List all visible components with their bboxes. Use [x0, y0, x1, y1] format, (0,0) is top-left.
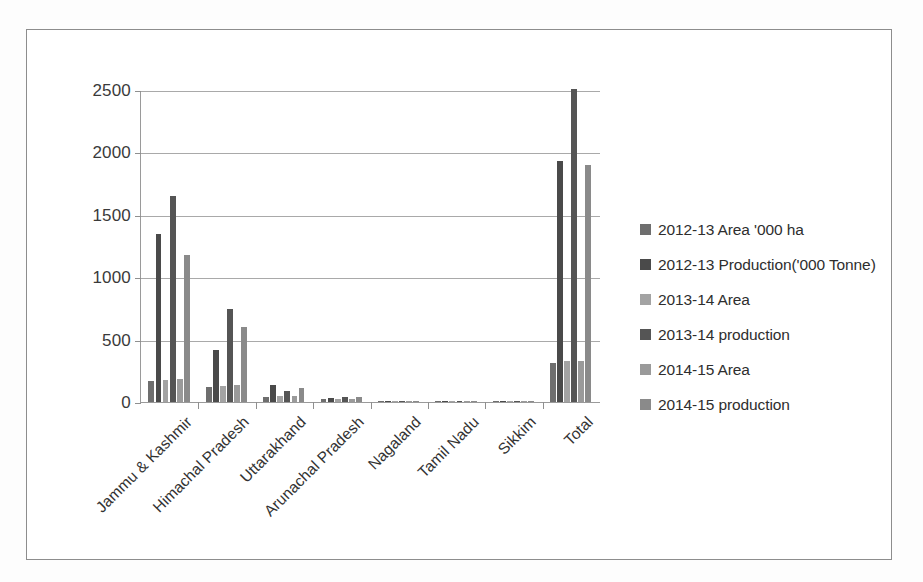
bar-group	[206, 91, 248, 402]
bar[interactable]	[464, 401, 470, 402]
bar-group	[435, 91, 477, 402]
bar[interactable]	[392, 401, 398, 402]
bar[interactable]	[234, 385, 240, 402]
bar[interactable]	[564, 361, 570, 402]
y-axis-tick-label: 2000	[92, 143, 131, 163]
bar[interactable]	[292, 396, 298, 402]
plot-area: 05001000150020002500	[140, 91, 600, 403]
bar[interactable]	[148, 381, 154, 402]
bar[interactable]	[342, 397, 348, 402]
bar[interactable]	[263, 397, 269, 402]
bar[interactable]	[206, 387, 212, 402]
bar[interactable]	[177, 379, 183, 402]
legend-swatch-icon	[640, 259, 651, 270]
legend-item-label: 2014-15 production	[658, 396, 790, 414]
bar[interactable]	[578, 361, 584, 402]
figure-border: 05001000150020002500 Jammu & KashmirHima…	[26, 29, 892, 560]
bar[interactable]	[328, 398, 334, 402]
bar[interactable]	[349, 399, 355, 402]
legend-item[interactable]: 2013-14 Area	[640, 282, 915, 317]
bar[interactable]	[277, 396, 283, 402]
x-axis-tick	[371, 402, 372, 409]
bar[interactable]	[335, 399, 341, 402]
bar[interactable]	[241, 327, 247, 402]
legend-item[interactable]: 2012-13 Production('000 Tonne)	[640, 247, 915, 282]
bar[interactable]	[521, 401, 527, 402]
legend-item[interactable]: 2014-15 Area	[640, 352, 915, 387]
bar[interactable]	[270, 385, 276, 402]
y-axis-tick	[135, 216, 141, 217]
x-axis-tick	[313, 402, 314, 409]
y-axis-tick	[135, 278, 141, 279]
legend-item-label: 2014-15 Area	[658, 361, 750, 379]
y-axis-tick	[135, 153, 141, 154]
chart-screenshot: 05001000150020002500 Jammu & KashmirHima…	[0, 0, 923, 582]
chart-legend: 2012-13 Area '000 ha2012-13 Production('…	[640, 212, 915, 422]
x-axis-tick	[543, 402, 544, 409]
bar[interactable]	[528, 401, 534, 402]
legend-item-label: 2013-14 Area	[658, 291, 750, 309]
bar[interactable]	[299, 388, 305, 402]
legend-item[interactable]: 2014-15 production	[640, 387, 915, 422]
legend-swatch-icon	[640, 329, 651, 340]
bar[interactable]	[406, 401, 412, 402]
x-axis-tick	[428, 402, 429, 409]
x-axis-tick	[198, 402, 199, 409]
bar[interactable]	[557, 161, 563, 402]
y-axis-tick	[135, 91, 141, 92]
y-axis-tick-label: 0	[121, 393, 131, 413]
bar-group	[321, 91, 363, 402]
bar-group	[263, 91, 305, 402]
bar[interactable]	[156, 234, 162, 402]
x-axis-tick	[256, 402, 257, 409]
y-axis-tick-label: 2500	[92, 81, 131, 101]
bar[interactable]	[585, 165, 591, 402]
bar[interactable]	[471, 401, 477, 402]
bar-group	[378, 91, 420, 402]
legend-item-label: 2012-13 Production('000 Tonne)	[658, 256, 876, 274]
bar[interactable]	[213, 350, 219, 402]
legend-item[interactable]: 2013-14 production	[640, 317, 915, 352]
bar[interactable]	[500, 401, 506, 402]
legend-item[interactable]: 2012-13 Area '000 ha	[640, 212, 915, 247]
bar[interactable]	[284, 391, 290, 402]
bar[interactable]	[184, 255, 190, 403]
bar[interactable]	[163, 380, 169, 402]
bar[interactable]	[356, 397, 362, 402]
bar[interactable]	[385, 401, 391, 402]
bar[interactable]	[571, 89, 577, 402]
bar[interactable]	[399, 401, 405, 402]
legend-swatch-icon	[640, 294, 651, 305]
bar[interactable]	[507, 401, 513, 402]
bar[interactable]	[442, 401, 448, 402]
y-axis-tick-label: 1500	[92, 206, 131, 226]
x-axis-tick	[485, 402, 486, 409]
legend-item-label: 2013-14 production	[658, 326, 790, 344]
bar-group	[550, 91, 592, 402]
bar-group	[148, 91, 190, 402]
bar[interactable]	[227, 309, 233, 402]
y-axis-tick	[135, 403, 141, 404]
bar[interactable]	[413, 401, 419, 402]
bar[interactable]	[170, 196, 176, 402]
legend-swatch-icon	[640, 399, 651, 410]
bar-group	[493, 91, 535, 402]
legend-swatch-icon	[640, 224, 651, 235]
bar[interactable]	[220, 386, 226, 402]
y-axis-tick	[135, 341, 141, 342]
bar[interactable]	[378, 401, 384, 402]
bar[interactable]	[514, 401, 520, 402]
bar[interactable]	[493, 401, 499, 402]
bar[interactable]	[321, 399, 327, 402]
bar[interactable]	[457, 401, 463, 402]
y-axis-tick-label: 500	[102, 331, 131, 351]
legend-swatch-icon	[640, 364, 651, 375]
legend-item-label: 2012-13 Area '000 ha	[658, 221, 804, 239]
bar[interactable]	[449, 401, 455, 402]
bar[interactable]	[550, 363, 556, 402]
y-axis-tick-label: 1000	[92, 268, 131, 288]
bar[interactable]	[435, 401, 441, 402]
